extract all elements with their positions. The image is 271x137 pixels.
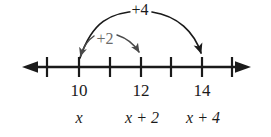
expression-label-x: x (75, 110, 82, 126)
jump-label-plus-2: +2 (95, 31, 114, 47)
left-arrowhead-icon (22, 61, 38, 73)
expression-label-x-plus-4: x + 4 (186, 110, 220, 126)
tick-label-10: 10 (71, 82, 88, 99)
number-line-figure: +4 +2 10 12 14 x x + 2 x + 4 (0, 0, 271, 137)
jump-arc-plus-4-right-segment (152, 12, 201, 53)
jump-arc-plus-2-right-segment (117, 35, 139, 52)
axis-group (22, 61, 251, 73)
tick-label-12: 12 (133, 82, 150, 99)
right-arrowhead-icon (235, 61, 251, 73)
tick-label-14: 14 (194, 82, 211, 99)
jump-label-plus-4: +4 (130, 2, 149, 18)
expression-label-x-plus-2: x + 2 (125, 110, 159, 126)
